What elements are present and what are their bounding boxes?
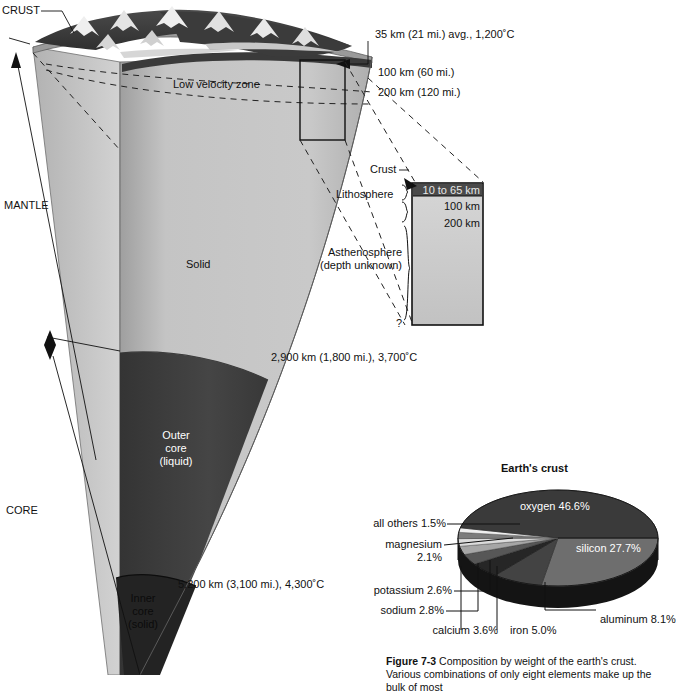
- terrain-surface: [33, 6, 372, 60]
- label-inset-crust: Crust: [370, 163, 396, 176]
- figure-caption-line2: combinations of only eight elements make…: [386, 668, 651, 693]
- pie-label-oxygen: oxygen 46.6%: [520, 500, 590, 513]
- label-depth-2900km: 2,900 km (1,800 mi.), 3,700˚C: [271, 351, 417, 364]
- pie-label-potassium: potassium 2.6%: [338, 584, 452, 597]
- label-outer-core-line1: Outer: [148, 429, 204, 442]
- pie-label-aluminum: aluminum 8.1%: [600, 613, 676, 626]
- inset-asthenosphere-brace: [404, 226, 410, 320]
- label-core: CORE: [6, 504, 38, 517]
- label-inset-depth-100: 100 km: [402, 200, 480, 213]
- label-inner-core-line2: core: [118, 605, 168, 618]
- label-inset-depth-200: 200 km: [402, 217, 480, 230]
- pie-label-iron: iron 5.0%: [510, 624, 556, 637]
- label-inner-core-line3: (solid): [118, 618, 168, 631]
- label-crust: CRUST: [2, 4, 40, 17]
- label-outer-core-line2: core: [148, 442, 204, 455]
- figure-number: Figure 7-3: [386, 655, 436, 667]
- pie-label-silicon: silicon 27.7%: [576, 542, 641, 555]
- label-depth-100km: 100 km (60 mi.): [378, 66, 454, 79]
- label-inset-lithosphere: Lithosphere: [336, 188, 394, 201]
- label-mantle-solid: Solid: [186, 258, 210, 271]
- pie-chart-title: Earth's crust: [501, 462, 568, 474]
- pie-label-all-others: all others 1.5%: [348, 517, 446, 530]
- label-depth-5200km: 5,200 km (3,100 mi.), 4,300˚C: [178, 578, 324, 591]
- pie-label-calcium: calcium 3.6%: [370, 624, 498, 637]
- label-inset-asthenosphere-line1: Asthenosphere: [310, 246, 402, 259]
- pie-label-sodium: sodium 2.8%: [350, 604, 444, 617]
- label-depth-200km: 200 km (120 mi.): [378, 86, 461, 99]
- label-low-velocity-zone: Low velocity zone: [173, 78, 260, 91]
- label-inner-core-line1: Inner: [118, 592, 168, 605]
- label-depth-35km: 35 km (21 mi.) avg., 1,200˚C: [375, 28, 514, 41]
- label-outer-core-line3: (liquid): [148, 455, 204, 468]
- label-inset-asthenosphere-line2: (depth unknown): [310, 259, 402, 272]
- label-mantle: MANTLE: [4, 199, 49, 212]
- pie-label-magnesium-line1: magnesium: [352, 538, 442, 551]
- figure-caption: Figure 7-3 Composition by weight of the …: [386, 655, 672, 694]
- label-inset-question-mark: ?: [396, 317, 402, 330]
- pie-label-magnesium-line2: 2.1%: [352, 551, 442, 564]
- label-inset-depth-10-65: 10 to 65 km: [402, 184, 480, 197]
